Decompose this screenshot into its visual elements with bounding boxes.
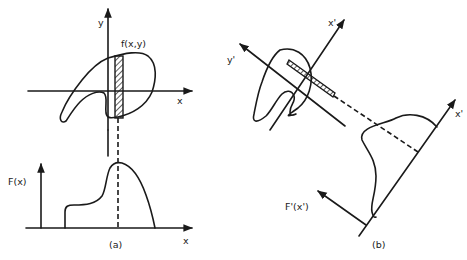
y-axis-label: y (98, 17, 104, 28)
F-curve (65, 163, 155, 228)
x-prime-label-projection: x' (455, 108, 463, 119)
x-prime-label: x' (328, 17, 336, 28)
panel-b-projection: x' F'(x') (285, 100, 463, 236)
panel-a-top-plot: y f(x,y) x (28, 9, 192, 130)
projection-diagram: y f(x,y) x F(x) x (a) y' x' x' (0, 0, 467, 260)
x-axis-label: x (177, 95, 183, 106)
F-prime-curve (362, 115, 437, 217)
projection-connector-b (334, 96, 418, 152)
integration-strip (115, 56, 123, 118)
y-prime-label: y' (227, 54, 235, 65)
y-prime-axis (240, 44, 345, 126)
panel-a-bottom-plot: F(x) x (8, 163, 192, 246)
integration-strip-rotated (287, 60, 335, 97)
caption-b: (b) (372, 239, 385, 250)
F-axis-label: F(x) (8, 176, 27, 187)
function-label: f(x,y) (121, 38, 146, 49)
x-axis-label: x (183, 235, 189, 246)
panel-b-rotated-plot: y' x' (227, 17, 345, 130)
caption-a: (a) (109, 239, 122, 250)
F-prime-axis-label: F'(x') (285, 201, 309, 212)
F-prime-axis (318, 191, 366, 225)
